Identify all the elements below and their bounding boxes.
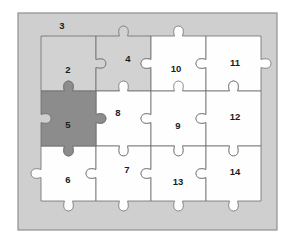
piece-13[interactable] [141, 146, 206, 211]
puzzle-pieces-layer [31, 26, 271, 211]
piece-12[interactable] [196, 81, 261, 156]
piece-14-shape[interactable] [196, 146, 261, 211]
piece-7[interactable] [86, 146, 151, 211]
piece-12-shape[interactable] [196, 81, 261, 156]
piece-13-shape[interactable] [141, 146, 206, 211]
piece-7-shape[interactable] [86, 146, 151, 211]
jigsaw-puzzle-diagram: 241011891267131453 [0, 0, 295, 242]
piece-6-shape[interactable] [31, 146, 96, 211]
piece-14[interactable] [196, 146, 261, 211]
piece-6[interactable] [31, 146, 96, 211]
puzzle-svg-canvas: 241011891267131453 [0, 0, 295, 242]
piece-5[interactable] [41, 81, 106, 156]
piece-5-shape[interactable] [41, 81, 106, 156]
puzzle-figure-stage: 241011891267131453 [0, 0, 295, 242]
